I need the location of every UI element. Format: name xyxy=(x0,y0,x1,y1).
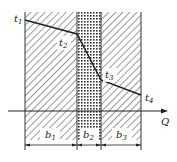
label-q: Q xyxy=(161,116,169,127)
label-t4: t4 xyxy=(145,92,154,105)
layer-b2 xyxy=(77,12,101,140)
label-t1: t1 xyxy=(14,13,23,26)
q-axis-arrow-icon xyxy=(161,109,168,114)
wall-diagram: t1 t2 t3 t4 Q b1 b2 b3 xyxy=(0,0,177,162)
